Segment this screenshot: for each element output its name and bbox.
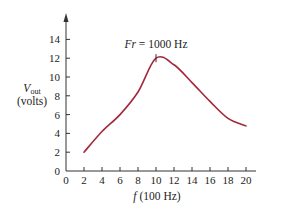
x-tick-label: 8 (135, 174, 141, 186)
annotations: Fr = 1000 Hz (123, 38, 187, 62)
y-axis-title: Vout (23, 82, 41, 96)
annotation-value: = 1000 Hz (136, 38, 188, 50)
x-axis-title-unit: (100 Hz) (137, 190, 181, 203)
peak-annotation: Fr = 1000 Hz (123, 38, 187, 50)
series-group (84, 57, 246, 152)
y-ticks: 02468101214 (49, 33, 70, 177)
y-tick-label: 6 (55, 109, 61, 121)
x-tick-label: 2 (81, 174, 87, 186)
x-tick-label: 16 (205, 174, 217, 186)
x-axis-title: f (100 Hz) (133, 190, 180, 203)
y-tick-label: 0 (55, 165, 61, 177)
y-tick-label: 2 (55, 146, 61, 158)
y-tick-label: 8 (55, 90, 61, 102)
y-axis-unit: (volts) (17, 95, 47, 108)
x-tick-label: 6 (117, 174, 123, 186)
x-tick-label: 20 (241, 174, 253, 186)
y-tick-label: 4 (55, 127, 61, 139)
axes (64, 13, 257, 171)
y-axis-arrow (64, 13, 69, 22)
series-line-vout (84, 57, 246, 152)
x-tick-label: 0 (63, 174, 69, 186)
x-tick-label: 14 (187, 174, 199, 186)
y-tick-label: 12 (49, 52, 60, 64)
x-tick-label: 18 (223, 174, 235, 186)
x-tick-label: 10 (151, 174, 163, 186)
annotation-var: Fr (123, 38, 136, 50)
chart: 02468101214161820 02468101214 Fr = 1000 … (0, 0, 282, 219)
x-ticks: 02468101214161820 (63, 167, 252, 186)
x-tick-label: 4 (99, 174, 105, 186)
y-tick-label: 10 (49, 71, 61, 83)
x-tick-label: 12 (169, 174, 180, 186)
y-tick-label: 14 (49, 33, 61, 45)
